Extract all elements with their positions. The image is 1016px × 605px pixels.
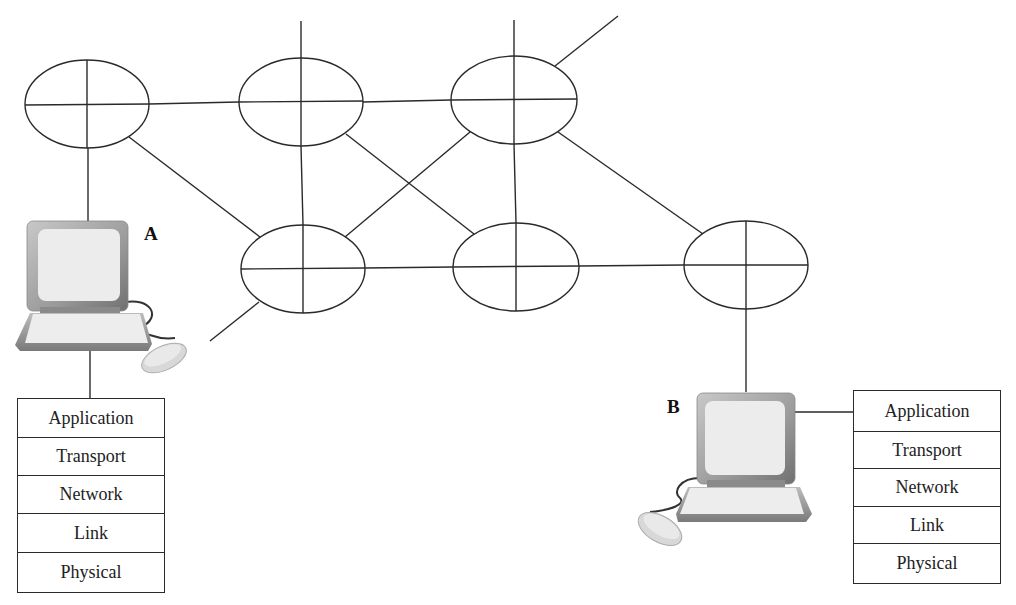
host-b-protocol-stack: Application Transport Network Link Physi… [853,390,1001,584]
layer-transport: Transport [854,432,1000,469]
layer-network: Network [854,469,1000,507]
link-r4-external [210,302,259,341]
link-r2-r3 [363,100,451,102]
layer-link: Link [18,514,164,553]
link-r3-r5 [514,144,516,223]
link-r3-r6 [558,132,703,234]
computer-b-icon [633,393,812,552]
layer-physical: Physical [18,553,164,591]
link-r1-r2 [149,102,239,104]
router-r3 [451,56,577,144]
layer-transport: Transport [18,438,164,476]
host-a-label: A [144,223,158,245]
layer-physical: Physical [854,544,1000,582]
link-r1-r4 [129,137,260,237]
host-a-protocol-stack: Application Transport Network Link Physi… [17,398,165,593]
link-r5-r6 [579,265,684,266]
link-r3-external [555,16,618,66]
router-r1 [25,60,149,148]
router-r4 [241,225,365,313]
layer-network: Network [18,476,164,514]
layer-application: Application [18,399,164,438]
link-r2-r5 [346,134,474,234]
router-r6 [684,221,808,309]
router-r2 [239,58,363,146]
layer-application: Application [854,391,1000,432]
router-r5 [453,223,579,311]
host-b-label: B [667,396,680,418]
link-r2-r4 [301,146,303,225]
link-r4-r5 [365,267,453,268]
layer-link: Link [854,507,1000,544]
computer-a-icon [15,221,191,379]
